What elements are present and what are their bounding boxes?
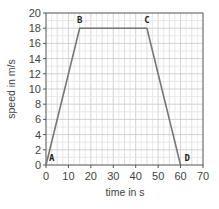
- y-tick-label: 0: [35, 159, 41, 171]
- x-axis-title: time in s: [105, 186, 144, 198]
- x-tick-label: 20: [85, 170, 97, 182]
- y-tick-label: 2: [35, 144, 41, 156]
- grid: [46, 13, 203, 165]
- point-label-b: B: [77, 15, 83, 25]
- y-tick-label: 4: [35, 129, 41, 141]
- x-tick-label: 70: [197, 170, 209, 182]
- x-axis-ticks: 010203040506070: [43, 165, 209, 182]
- y-tick-label: 6: [35, 113, 41, 125]
- speed-time-chart: 02468101214161820 010203040506070 ABCD t…: [0, 0, 219, 209]
- y-tick-label: 12: [29, 68, 41, 80]
- y-tick-label: 8: [35, 98, 41, 110]
- y-tick-label: 14: [29, 53, 41, 65]
- x-tick-label: 10: [62, 170, 74, 182]
- y-tick-label: 16: [29, 37, 41, 49]
- point-label-c: C: [144, 15, 149, 25]
- x-tick-label: 50: [152, 170, 164, 182]
- x-tick-label: 40: [130, 170, 142, 182]
- y-axis-ticks: 02468101214161820: [29, 7, 46, 171]
- x-tick-label: 60: [174, 170, 186, 182]
- x-tick-label: 0: [43, 170, 49, 182]
- y-tick-label: 18: [29, 22, 41, 34]
- y-axis-title: speed in m/s: [5, 59, 17, 119]
- x-tick-label: 30: [107, 170, 119, 182]
- y-tick-label: 10: [29, 83, 41, 95]
- point-label-d: D: [185, 153, 191, 163]
- y-tick-label: 20: [29, 7, 41, 19]
- point-label-a: A: [49, 153, 55, 163]
